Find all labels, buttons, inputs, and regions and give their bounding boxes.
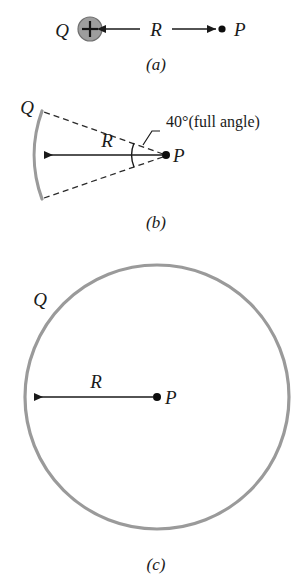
panel-a: Q R P (a) bbox=[55, 17, 246, 74]
panel-b-distance-label: R bbox=[100, 130, 113, 151]
panel-c-point-dot bbox=[153, 393, 161, 401]
panel-c-point-label: P bbox=[164, 387, 177, 408]
panel-b-caption: (b) bbox=[146, 213, 166, 232]
panel-b-point-dot bbox=[162, 151, 170, 159]
panel-b-charge-label: Q bbox=[20, 97, 34, 118]
panel-a-point-label: P bbox=[233, 19, 246, 40]
panel-a-point-dot bbox=[218, 25, 225, 32]
panel-b-angle-label: 40°(full angle) bbox=[166, 113, 260, 131]
panel-b-wedge-side-bottom bbox=[44, 157, 163, 198]
panel-c-caption: (c) bbox=[147, 555, 166, 574]
figure-canvas: Q R P (a) Q R bbox=[0, 0, 298, 582]
panel-a-distance-label: R bbox=[149, 19, 162, 40]
panel-b-angle-leader bbox=[143, 131, 160, 145]
panel-c-distance-label: R bbox=[89, 371, 102, 392]
panel-a-caption: (a) bbox=[146, 55, 166, 74]
panel-a-point-charge bbox=[78, 17, 102, 41]
panel-c-charge-label: Q bbox=[33, 289, 47, 310]
panel-b-charge-arc bbox=[34, 111, 42, 199]
panel-b: Q R 40°(full angle) P (b) bbox=[20, 97, 260, 232]
panel-a-charge-label: Q bbox=[55, 20, 69, 41]
panel-c: Q R P (c) bbox=[25, 265, 289, 574]
panel-b-point-label: P bbox=[172, 145, 185, 166]
physics-figure: Q R P (a) Q R bbox=[0, 0, 298, 582]
